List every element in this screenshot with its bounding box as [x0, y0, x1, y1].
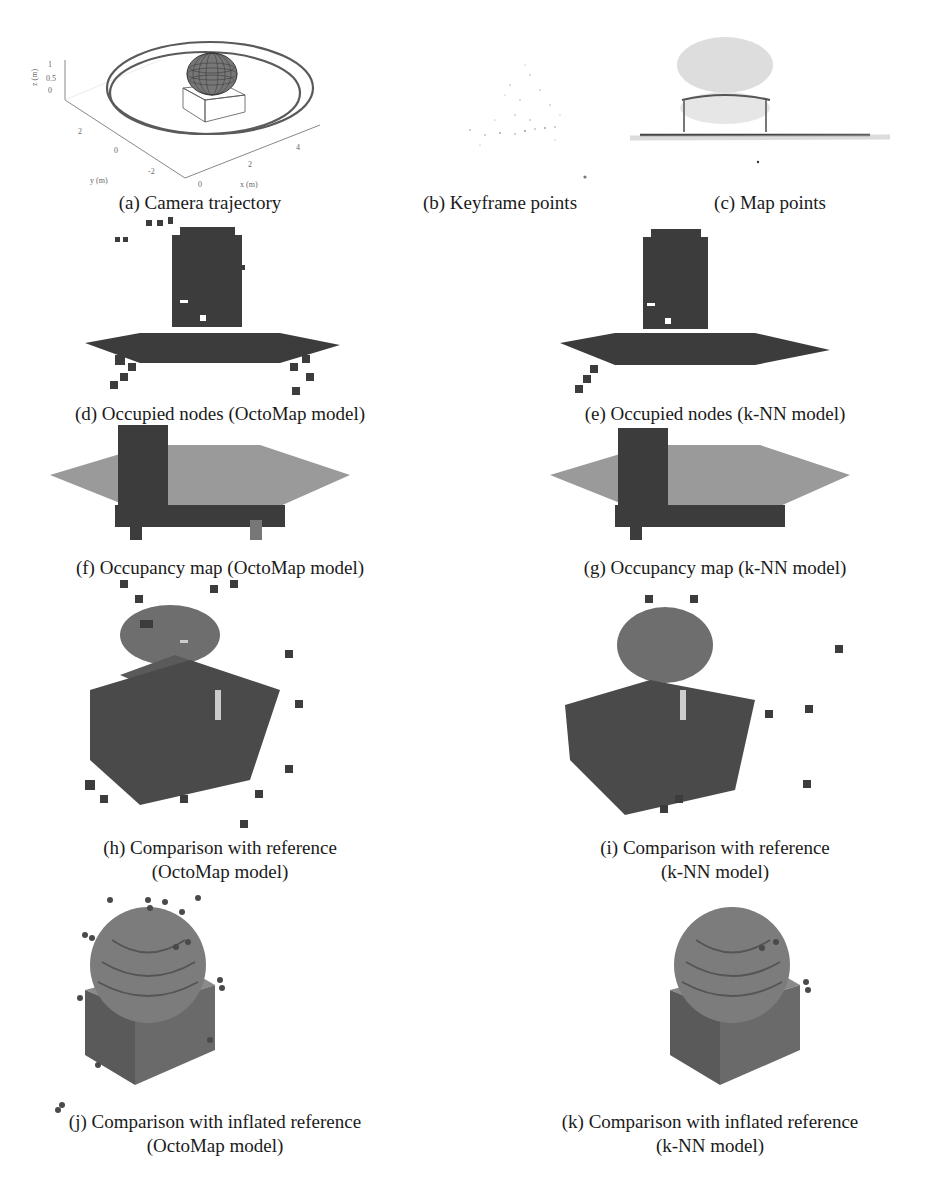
panel-occupancy-octomap — [50, 420, 410, 555]
panel-occupancy-knn — [550, 420, 910, 555]
panel-keyframe-points — [430, 30, 630, 190]
panel-occupied-octomap — [80, 215, 410, 400]
x-tick-4: 4 — [296, 143, 300, 152]
z-axis-label: z (m) — [30, 69, 39, 86]
trajectory-plot: 1 0.5 0 z (m) 2 0 -2 y (m) 0 2 4 x (m) — [0, 0, 330, 200]
x-tick-0: 0 — [198, 180, 202, 189]
caption-i: (i) Comparison with reference (k-NN mode… — [525, 836, 905, 884]
z-tick-1: 1 — [48, 60, 52, 69]
occupied-nodes-knn — [555, 215, 885, 400]
x-tick-2: 2 — [248, 160, 252, 169]
keyframe-scatter — [430, 30, 630, 190]
occupancy-map-knn — [550, 420, 910, 555]
comparison-reference-octomap — [80, 580, 420, 825]
caption-k: (k) Comparison with inflated reference (… — [510, 1110, 910, 1158]
panel-map-points — [620, 20, 920, 190]
caption-a: (a) Camera trajectory — [70, 191, 330, 215]
caption-h: (h) Comparison with reference (OctoMap m… — [30, 836, 410, 884]
panel-comparison-octomap — [80, 580, 420, 825]
caption-j: (j) Comparison with inflated reference (… — [20, 1110, 410, 1158]
occupancy-map-octomap — [50, 420, 410, 555]
caption-b: (b) Keyframe points — [385, 191, 615, 215]
caption-c: (c) Map points — [690, 191, 850, 215]
map-scatter — [620, 20, 920, 190]
comparison-reference-knn — [555, 590, 885, 825]
caption-g: (g) Occupancy map (k-NN model) — [525, 556, 905, 580]
panel-comparison-knn — [555, 590, 885, 825]
comparison-inflated-knn — [330, 890, 930, 1110]
panel-inflated-knn — [330, 890, 930, 1110]
occupied-nodes-octomap — [80, 215, 410, 400]
z-tick-0.5: 0.5 — [46, 74, 56, 83]
y-axis-label: y (m) — [90, 176, 108, 185]
panel-camera-trajectory: 1 0.5 0 z (m) 2 0 -2 y (m) 0 2 4 x (m) — [0, 0, 330, 200]
panel-occupied-knn — [555, 215, 885, 400]
y-tick-0: 0 — [114, 146, 118, 155]
x-axis-label: x (m) — [240, 180, 258, 189]
caption-f: (f) Occupancy map (OctoMap model) — [30, 556, 410, 580]
z-tick-0: 0 — [48, 86, 52, 95]
y-tick-2: 2 — [78, 127, 82, 136]
y-tick-neg2: -2 — [148, 167, 155, 176]
